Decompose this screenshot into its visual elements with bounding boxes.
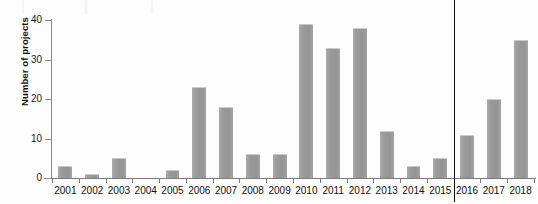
x-tick-label-2006: 2006: [186, 186, 213, 196]
x-tick-mark: [52, 179, 53, 183]
y-tick-mark: [45, 178, 51, 179]
y-tick-label: 20: [20, 94, 42, 104]
x-tick-mark: [400, 179, 401, 183]
bar-2015: [433, 158, 447, 178]
x-tick-label-2005: 2005: [159, 186, 186, 196]
x-tick-label-2015: 2015: [427, 186, 454, 196]
y-tick-mark: [45, 99, 51, 100]
bar-2018: [514, 40, 528, 178]
x-tick-mark: [132, 179, 133, 183]
x-tick-mark: [79, 179, 80, 183]
bar-2016: [460, 135, 474, 178]
bar-2013: [380, 131, 394, 178]
y-tick-label: 0: [20, 173, 42, 183]
x-tick-mark: [347, 179, 348, 183]
plot-area: [52, 20, 534, 178]
x-tick-mark: [480, 179, 481, 183]
x-tick-mark: [239, 179, 240, 183]
bar-2003: [112, 158, 126, 178]
y-tick-label-wrap: 40: [12, 15, 42, 25]
y-tick-label: 40: [20, 15, 42, 25]
x-tick-label-2011: 2011: [320, 186, 347, 196]
x-tick-mark: [507, 179, 508, 183]
y-tick-label-wrap: 0: [12, 173, 42, 183]
scan-artifact: [0, 0, 538, 14]
x-tick-label-2001: 2001: [52, 186, 79, 196]
x-tick-label-2017: 2017: [480, 186, 507, 196]
bar-2005: [166, 170, 180, 178]
y-tick-label: 10: [20, 134, 42, 144]
x-tick-mark: [186, 179, 187, 183]
x-tick-mark: [534, 179, 535, 183]
bar-2012: [353, 28, 367, 178]
x-tick-mark: [266, 179, 267, 183]
x-tick-label-2014: 2014: [400, 186, 427, 196]
x-tick-mark: [320, 179, 321, 183]
x-tick-mark: [293, 179, 294, 183]
x-tick-label-2009: 2009: [266, 186, 293, 196]
y-tick-mark: [45, 20, 51, 21]
y-tick-mark: [45, 139, 51, 140]
x-tick-label-2007: 2007: [213, 186, 240, 196]
x-tick-label-2012: 2012: [347, 186, 374, 196]
x-tick-label-2002: 2002: [79, 186, 106, 196]
bar-2010: [299, 24, 313, 178]
x-tick-label-2018: 2018: [507, 186, 534, 196]
bar-2011: [326, 48, 340, 178]
bar-2014: [407, 166, 421, 178]
x-tick-mark: [373, 179, 374, 183]
bar-2017: [487, 99, 501, 178]
x-tick-label-2016: 2016: [454, 186, 481, 196]
x-tick-label-2004: 2004: [132, 186, 159, 196]
bar-2009: [273, 154, 287, 178]
y-tick-label-wrap: 10: [12, 134, 42, 144]
x-tick-mark: [213, 179, 214, 183]
y-tick-label-wrap: 20: [12, 94, 42, 104]
x-tick-label-2008: 2008: [239, 186, 266, 196]
x-tick-mark: [159, 179, 160, 183]
bar-2008: [246, 154, 260, 178]
bar-2002: [85, 174, 99, 178]
y-tick-label-wrap: 30: [12, 55, 42, 65]
bar-2001: [58, 166, 72, 178]
y-tick-mark: [45, 60, 51, 61]
x-tick-mark: [427, 179, 428, 183]
vertical-divider: [454, 0, 456, 202]
y-tick-label: 30: [20, 55, 42, 65]
bar-2007: [219, 107, 233, 178]
bar-2006: [192, 87, 206, 178]
x-axis-line: [44, 178, 536, 179]
x-tick-label-2013: 2013: [373, 186, 400, 196]
x-tick-label-2010: 2010: [293, 186, 320, 196]
x-tick-label-2003: 2003: [106, 186, 133, 196]
x-tick-mark: [106, 179, 107, 183]
bar-chart: Number of projects 010203040 20012002200…: [0, 0, 538, 204]
